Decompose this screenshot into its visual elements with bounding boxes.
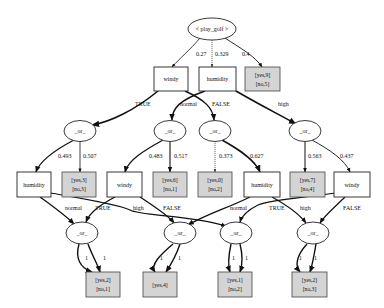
branch-label: TRUE <box>135 101 151 107</box>
svg-text:[no,3]: [no,3] <box>72 186 86 192</box>
attr-label: windy <box>164 76 179 82</box>
weight-label: 1 <box>314 255 317 261</box>
weight-label: 0.483 <box>149 153 163 159</box>
svg-text:[yes,2]: [yes,2] <box>95 277 111 283</box>
leaf-node: [yes,4] <box>143 272 177 297</box>
branch-label: FALSE <box>163 205 181 211</box>
weight-label: 0.4 <box>242 51 250 57</box>
edge-bor3-leaf-b <box>240 244 242 272</box>
attr-node-humidity: humidity <box>17 172 51 197</box>
svg-text:[no,4]: [no,4] <box>301 186 315 192</box>
leaf-node: [yes,2] [no,3] <box>292 272 327 297</box>
leaf-node: [yes,1] [no,2] <box>218 272 252 297</box>
leaf-node: [yes,0] [no,2] <box>198 172 232 197</box>
leaf-node: [yes,9] [no,5] <box>245 67 280 91</box>
root-node: < play_golf > <box>188 18 236 40</box>
leaf-node: [yes,2] [no,1] <box>86 272 120 297</box>
weight-label: 1 <box>178 255 181 261</box>
weight-label: 1 <box>103 255 106 261</box>
edge-bor2-leaf-a <box>154 244 173 272</box>
svg-text:_or_: _or_ <box>209 128 222 134</box>
svg-text:[no,2]: [no,2] <box>228 286 242 292</box>
svg-text:[no,1]: [no,1] <box>163 186 177 192</box>
edge-bor3-leaf-a <box>229 244 231 272</box>
branch-label: TRUE <box>95 205 111 211</box>
branch-label: normal <box>180 101 197 107</box>
or-node: _or_ <box>199 121 231 142</box>
svg-text:humidity: humidity <box>251 182 273 188</box>
svg-text:windy: windy <box>345 182 360 188</box>
weight-label: 1 <box>160 255 163 261</box>
attr-label: humidity <box>207 76 229 82</box>
attr-node-windy: windy <box>334 172 370 197</box>
svg-text:humidity: humidity <box>23 182 45 188</box>
svg-text:[no,1]: [no,1] <box>96 286 110 292</box>
or-node: _or_ <box>64 121 96 142</box>
or-node: _or_ <box>66 222 98 244</box>
or-node: _or_ <box>220 222 252 244</box>
branch-label: high <box>300 205 311 211</box>
weight-label: 0.517 <box>174 153 188 159</box>
svg-text:_or_: _or_ <box>307 230 320 236</box>
attr-node-humidity: humidity <box>244 172 280 197</box>
root-label: < play_golf > <box>196 26 229 32</box>
svg-text:_or_: _or_ <box>299 128 312 134</box>
svg-text:_or_: _or_ <box>74 128 87 134</box>
branch-label: normal <box>65 205 82 211</box>
svg-text:_or_: _or_ <box>164 128 177 134</box>
svg-text:_or_: _or_ <box>230 230 243 236</box>
weight-label: 1 <box>299 255 302 261</box>
leaf-node: [yes,6] [no,1] <box>153 172 187 197</box>
leaf-node: [yes,7] [no,4] <box>290 172 325 197</box>
or-node: _or_ <box>154 121 186 142</box>
attr-node-humidity: humidity <box>199 67 236 91</box>
branch-label: high <box>133 205 144 211</box>
or-node: _or_ <box>164 222 196 244</box>
or-node: _or_ <box>297 222 329 244</box>
svg-text:_or_: _or_ <box>174 230 187 236</box>
edge-windy-right-false <box>320 197 345 223</box>
branch-label: FALSE <box>212 101 230 107</box>
svg-text:[yes,9]: [yes,9] <box>255 72 271 78</box>
weight-label: 0.493 <box>58 153 72 159</box>
weight-label: 0.27 <box>196 51 207 57</box>
svg-text:[yes,0]: [yes,0] <box>207 177 223 183</box>
edge-bor1-leaf-b <box>88 244 100 272</box>
weight-label: 1 <box>232 255 235 261</box>
branch-label: high <box>278 101 289 107</box>
edge-windy-true-or1 <box>92 91 158 125</box>
svg-text:windy: windy <box>117 182 132 188</box>
svg-text:[yes,4]: [yes,4] <box>152 282 168 288</box>
svg-text:[no,5]: [no,5] <box>256 81 270 87</box>
weight-label: 1 <box>245 255 248 261</box>
svg-text:[yes,7]: [yes,7] <box>300 177 316 183</box>
branch-label: FALSE <box>343 205 361 211</box>
svg-text:[yes,6]: [yes,6] <box>162 177 178 183</box>
attr-node-windy: windy <box>107 172 142 197</box>
branch-label: TRUE <box>269 205 285 211</box>
svg-text:_or_: _or_ <box>76 230 89 236</box>
weight-label: 0.627 <box>250 153 264 159</box>
attr-node-windy: windy <box>154 67 188 91</box>
or-node: _or_ <box>289 121 321 142</box>
weight-label: 0.563 <box>308 153 322 159</box>
edge-humidity-high-or4 <box>236 91 296 124</box>
decision-diagram: 0.27 0.329 0.4 TRUE normal FALSE high 0.… <box>0 0 384 308</box>
svg-text:[yes,3]: [yes,3] <box>71 177 87 183</box>
weight-label: 0.373 <box>219 153 233 159</box>
weight-label: 0.507 <box>83 153 97 159</box>
svg-text:[no,2]: [no,2] <box>208 186 222 192</box>
leaf-node: [yes,3] [no,3] <box>62 172 96 197</box>
weight-label: 0.329 <box>215 51 229 57</box>
weight-label: 1 <box>85 255 88 261</box>
svg-text:[yes,2]: [yes,2] <box>302 277 318 283</box>
branch-label: normal <box>230 205 247 211</box>
svg-text:[no,3]: [no,3] <box>303 286 317 292</box>
svg-text:[yes,1]: [yes,1] <box>227 277 243 283</box>
weight-label: 0.437 <box>340 153 354 159</box>
